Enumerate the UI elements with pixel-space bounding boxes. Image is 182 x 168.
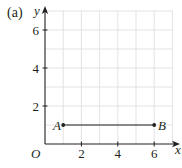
y-tick-label: 2 — [33, 99, 40, 114]
x-axis-label: x — [174, 142, 181, 157]
x-tick-label: 6 — [151, 146, 158, 161]
point-a-label: A — [52, 118, 61, 133]
coordinate-diagram: 2 4 6 2 4 6 x y O (a) A B — [0, 0, 182, 168]
point-b-label: B — [158, 118, 166, 133]
y-tick-label: 6 — [33, 23, 40, 38]
x-tick-label: 4 — [115, 146, 122, 161]
point-a — [61, 123, 65, 127]
x-tick-label: 2 — [78, 146, 85, 161]
y-axis-label: y — [32, 3, 40, 18]
point-b — [152, 123, 156, 127]
origin-label: O — [31, 146, 41, 161]
y-tick-label: 4 — [33, 61, 40, 76]
figure-label: (a) — [7, 5, 23, 21]
